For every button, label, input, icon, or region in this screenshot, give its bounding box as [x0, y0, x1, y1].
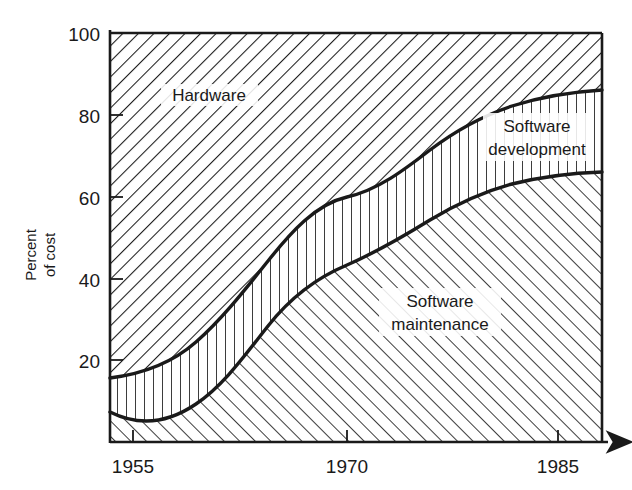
- annotation-software-maintenance: Software maintenance: [379, 288, 501, 336]
- annotation-software-development: Software development: [483, 113, 591, 161]
- y-tick-label-100: 100: [68, 24, 100, 45]
- annotation-hardware-text: Hardware: [172, 86, 246, 105]
- y-tick-label-60: 60: [79, 188, 100, 209]
- annotation-software-maintenance-line1: Software: [406, 292, 473, 311]
- annotation-software-maintenance-line2: maintenance: [391, 315, 488, 334]
- y-axis-title-line1: Percent: [22, 228, 39, 281]
- y-tick-label-80: 80: [79, 106, 100, 127]
- y-tick-label-20: 20: [79, 351, 100, 372]
- annotation-hardware: Hardware: [161, 84, 258, 106]
- chart-canvas: 100 80 60 40 20 Percent of cost 1955 197…: [0, 0, 632, 490]
- y-axis-title-line2: of cost: [41, 232, 58, 277]
- x-tick-label-1970: 1970: [326, 456, 368, 477]
- cost-distribution-chart: 100 80 60 40 20 Percent of cost 1955 197…: [0, 0, 632, 490]
- x-tick-label-1985: 1985: [537, 456, 579, 477]
- y-tick-label-40: 40: [79, 270, 100, 291]
- y-axis: 100 80 60 40 20 Percent of cost: [22, 24, 123, 443]
- x-tick-label-1955: 1955: [112, 456, 154, 477]
- annotation-software-development-line1: Software: [503, 117, 570, 136]
- annotation-software-development-line2: development: [488, 140, 586, 159]
